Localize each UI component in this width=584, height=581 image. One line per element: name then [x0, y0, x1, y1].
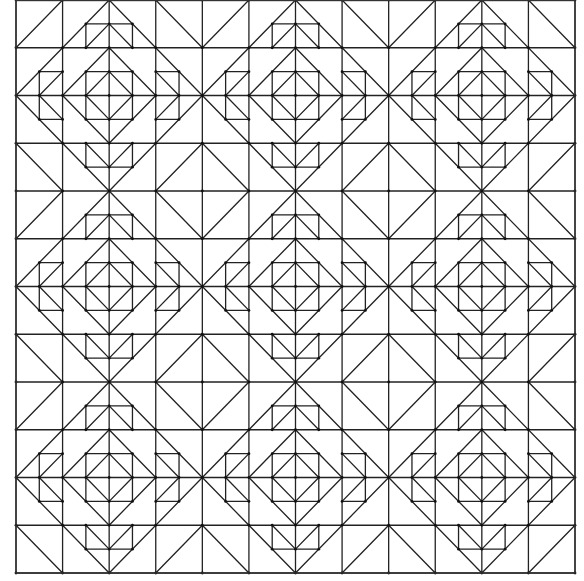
geese-right-diag — [528, 96, 551, 120]
vertex-dot — [271, 285, 274, 288]
geese-left-diag — [412, 263, 435, 287]
vertex-dot — [84, 46, 87, 49]
vertex-dot — [434, 94, 437, 97]
inner-diamond-edge — [482, 72, 505, 96]
vertex-dot — [434, 46, 437, 49]
vertex-dot — [84, 142, 87, 145]
vertex-dot — [550, 70, 553, 73]
vertex-dot — [131, 166, 134, 169]
vertex-dot — [84, 357, 87, 360]
vertex-dot — [504, 428, 507, 431]
geese-top-diag — [459, 406, 482, 430]
vertex-dot — [178, 500, 181, 503]
corner-diamond-edge — [342, 191, 389, 239]
vertex-dot — [294, 46, 297, 49]
geese-right-diag — [528, 263, 551, 287]
vertex-dot — [248, 500, 251, 503]
vertex-dot — [224, 261, 227, 264]
vertex-dot — [108, 524, 111, 527]
vertex-dot — [154, 285, 157, 288]
vertex-dot — [317, 118, 320, 121]
inner-diamond-edge — [296, 454, 319, 478]
vertex-dot — [504, 548, 507, 551]
vertex-dot — [341, 333, 344, 336]
vertex-dot — [108, 142, 111, 145]
vertex-dot — [154, 309, 157, 312]
vertex-dot — [38, 476, 41, 479]
vertex-dot — [317, 500, 320, 503]
corner-diamond-edge — [528, 334, 575, 382]
vertex-dot — [108, 381, 111, 384]
vertex-dot — [224, 94, 227, 97]
inner-diamond-edge — [482, 263, 505, 287]
vertex-dot — [108, 261, 111, 264]
vertex-dot — [527, 46, 530, 49]
vertex-dot — [341, 190, 344, 193]
vertex-dot — [434, 381, 437, 384]
vertex-dot — [527, 524, 530, 527]
vertex-dot — [550, 261, 553, 264]
vertex-dot — [271, 476, 274, 479]
vertex-dot — [527, 309, 530, 312]
vertex-dot — [248, 190, 251, 193]
vertex-dot — [504, 333, 507, 336]
vertex-dot — [504, 452, 507, 455]
geese-right-diag — [156, 263, 179, 287]
geese-top-diag — [296, 406, 319, 430]
vertex-dot — [248, 118, 251, 121]
geese-bottom-diag — [272, 334, 295, 358]
vertex-dot — [248, 142, 251, 145]
geese-top-diag — [109, 215, 132, 239]
vertex-dot — [434, 237, 437, 240]
geese-bottom-diag — [459, 525, 482, 549]
vertex-dot — [480, 285, 483, 288]
vertex-dot — [457, 142, 460, 145]
vertex-dot — [527, 452, 530, 455]
vertex-dot — [457, 500, 460, 503]
vertex-dot — [364, 309, 367, 312]
corner-diamond-edge — [389, 0, 436, 48]
vertex-dot — [271, 357, 274, 360]
corner-diamond-edge — [389, 143, 436, 191]
vertex-dot — [550, 500, 553, 503]
vertex-dot — [480, 190, 483, 193]
vertex-dot — [38, 261, 41, 264]
vertex-dot — [480, 261, 483, 264]
vertex-dot — [411, 94, 414, 97]
vertex-dot — [294, 213, 297, 216]
vertex-dot — [341, 70, 344, 73]
vertex-dot — [457, 237, 460, 240]
vertex-dot — [61, 118, 64, 121]
geese-right-diag — [156, 287, 179, 311]
vertex-dot — [364, 452, 367, 455]
vertex-dot — [364, 70, 367, 73]
inner-diamond-edge — [296, 263, 319, 287]
vertex-dot — [294, 285, 297, 288]
vertex-dot — [294, 476, 297, 479]
vertex-dot — [504, 94, 507, 97]
geese-left-diag — [39, 478, 62, 502]
vertex-dot — [411, 261, 414, 264]
inner-diamond-edge — [482, 478, 505, 502]
inner-diamond-edge — [109, 263, 132, 287]
geese-left-diag — [412, 72, 435, 96]
vertex-dot — [131, 309, 134, 312]
vertex-dot — [317, 46, 320, 49]
vertex-dot — [248, 70, 251, 73]
corner-diamond-edge — [156, 191, 203, 239]
vertex-dot — [317, 333, 320, 336]
inner-diamond-edge — [296, 287, 319, 311]
vertex-dot — [61, 333, 64, 336]
geese-right-diag — [156, 72, 179, 96]
vertex-dot — [248, 524, 251, 527]
corner-diamond-edge — [389, 382, 436, 430]
inner-diamond-edge — [296, 96, 319, 120]
vertex-dot — [38, 70, 41, 73]
vertex-dot — [154, 452, 157, 455]
geese-right-diag — [342, 454, 365, 478]
vertex-dot — [154, 524, 157, 527]
corner-diamond-edge — [202, 0, 249, 48]
vertex-dot — [201, 476, 204, 479]
vertex-dot — [108, 237, 111, 240]
geese-left-diag — [412, 454, 435, 478]
